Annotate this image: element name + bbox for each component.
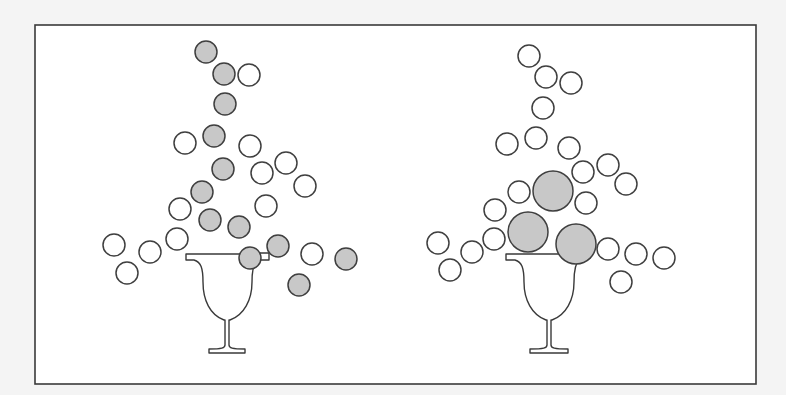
empty-ball bbox=[166, 228, 188, 250]
filled-ball bbox=[556, 224, 596, 264]
empty-ball bbox=[103, 234, 125, 256]
empty-ball bbox=[625, 243, 647, 265]
empty-ball bbox=[251, 162, 273, 184]
empty-ball bbox=[483, 228, 505, 250]
figure-frame bbox=[35, 25, 756, 384]
filled-ball bbox=[267, 235, 289, 257]
filled-ball bbox=[239, 247, 261, 269]
empty-ball bbox=[239, 135, 261, 157]
empty-ball bbox=[275, 152, 297, 174]
filled-ball bbox=[199, 209, 221, 231]
empty-ball bbox=[597, 154, 619, 176]
empty-ball bbox=[532, 97, 554, 119]
filled-ball bbox=[335, 248, 357, 270]
filled-ball bbox=[214, 93, 236, 115]
filled-ball bbox=[228, 216, 250, 238]
empty-ball bbox=[508, 181, 530, 203]
empty-ball bbox=[615, 173, 637, 195]
filled-ball bbox=[191, 181, 213, 203]
empty-ball bbox=[174, 132, 196, 154]
empty-ball bbox=[572, 161, 594, 183]
empty-ball bbox=[597, 238, 619, 260]
filled-ball bbox=[203, 125, 225, 147]
empty-ball bbox=[116, 262, 138, 284]
filled-ball bbox=[213, 63, 235, 85]
empty-ball bbox=[484, 199, 506, 221]
filled-ball bbox=[508, 212, 548, 252]
empty-ball bbox=[610, 271, 632, 293]
figure-canvas bbox=[0, 0, 786, 395]
empty-ball bbox=[525, 127, 547, 149]
empty-ball bbox=[301, 243, 323, 265]
empty-ball bbox=[461, 241, 483, 263]
filled-ball bbox=[288, 274, 310, 296]
empty-ball bbox=[439, 259, 461, 281]
empty-ball bbox=[535, 66, 557, 88]
empty-ball bbox=[518, 45, 540, 67]
filled-ball bbox=[533, 171, 573, 211]
empty-ball bbox=[427, 232, 449, 254]
empty-ball bbox=[653, 247, 675, 269]
filled-ball bbox=[195, 41, 217, 63]
filled-ball bbox=[212, 158, 234, 180]
empty-ball bbox=[560, 72, 582, 94]
empty-ball bbox=[238, 64, 260, 86]
empty-ball bbox=[169, 198, 191, 220]
empty-ball bbox=[558, 137, 580, 159]
empty-ball bbox=[496, 133, 518, 155]
empty-ball bbox=[294, 175, 316, 197]
empty-ball bbox=[575, 192, 597, 214]
empty-ball bbox=[255, 195, 277, 217]
empty-ball bbox=[139, 241, 161, 263]
